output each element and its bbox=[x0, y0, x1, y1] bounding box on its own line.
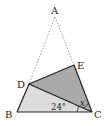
label-e: E bbox=[77, 60, 84, 71]
angle-label-24: 24° bbox=[51, 102, 66, 112]
label-b: B bbox=[5, 109, 12, 120]
dashed-segment-ae bbox=[55, 17, 74, 65]
label-c: C bbox=[94, 109, 102, 120]
label-a: A bbox=[50, 5, 59, 16]
label-d: D bbox=[17, 79, 25, 90]
angle-label-x: x bbox=[80, 98, 85, 108]
dashed-segment-ad bbox=[29, 17, 55, 84]
triangle-fold-diagram: A E D B C 24° x bbox=[0, 0, 110, 126]
